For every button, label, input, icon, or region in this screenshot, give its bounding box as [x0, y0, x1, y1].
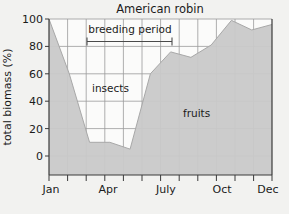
y-tick-label-40: 40: [29, 95, 43, 108]
x-tick-label-apr: Apr: [98, 183, 118, 196]
chart-figure: American robin total biomass (%): [0, 0, 289, 214]
x-tick-label-july: July: [155, 183, 176, 196]
y-tick-label-0: 0: [36, 150, 43, 163]
y-axis-title: total biomass (%): [1, 49, 14, 146]
american-robin-area-chart: American robin total biomass (%): [0, 0, 289, 214]
y-tick-label-20: 20: [29, 123, 43, 136]
x-tick-label-dec: Dec: [257, 183, 278, 196]
y-tick-label-60: 60: [29, 68, 43, 81]
y-tick-label-100: 100: [22, 13, 43, 26]
breeding-period-label: breeding period: [88, 23, 171, 35]
x-tick-label-oct: Oct: [212, 183, 232, 196]
chart-title: American robin: [116, 2, 204, 16]
region-label-fruits: fruits: [183, 107, 210, 119]
y-tick-label-80: 80: [29, 40, 43, 53]
x-tick-label-jan: Jan: [42, 183, 60, 196]
region-label-insects: insects: [92, 82, 129, 94]
